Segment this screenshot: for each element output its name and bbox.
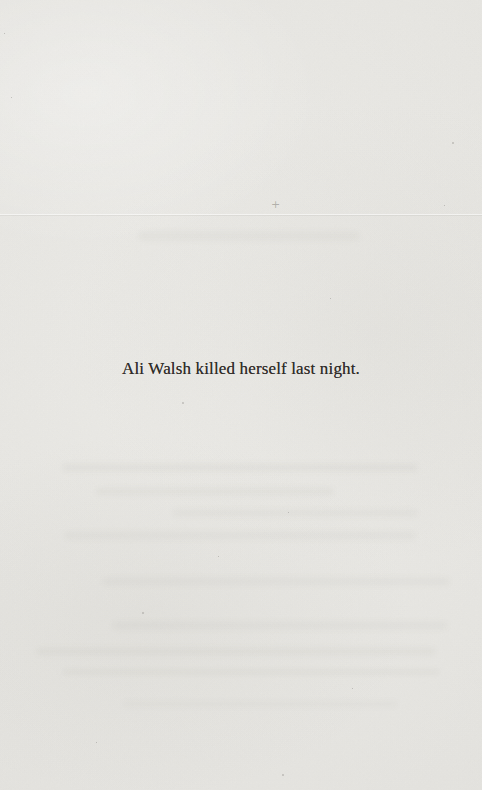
dust-speck xyxy=(182,402,184,404)
ghost-bleedthrough xyxy=(112,621,448,630)
dust-speck xyxy=(330,298,331,299)
ghost-bleedthrough xyxy=(62,668,440,676)
ghost-bleedthrough xyxy=(64,531,416,540)
dust-speck xyxy=(282,774,284,776)
scan-artifact-mark: + xyxy=(271,198,280,211)
page-text: Ali Walsh killed herself last night. xyxy=(0,359,482,379)
scan-artifact-line xyxy=(0,214,482,215)
ghost-bleedthrough xyxy=(36,647,436,656)
dust-speck xyxy=(218,556,219,557)
dust-speck xyxy=(11,97,12,98)
dust-speck xyxy=(444,205,445,206)
paper-grain-texture xyxy=(0,0,482,790)
dust-speck xyxy=(4,33,5,34)
ghost-bleedthrough xyxy=(138,231,360,241)
ghost-bleedthrough xyxy=(122,700,398,708)
ghost-bleedthrough xyxy=(62,463,418,472)
dust-speck xyxy=(352,688,353,689)
dust-speck xyxy=(452,142,454,144)
dust-speck xyxy=(142,612,144,614)
ghost-bleedthrough xyxy=(172,509,418,517)
ghost-bleedthrough xyxy=(96,487,334,496)
book-page: + Ali Walsh killed herself last night. xyxy=(0,0,482,790)
dust-speck xyxy=(96,742,97,743)
dust-speck xyxy=(288,512,289,513)
ghost-bleedthrough xyxy=(102,577,450,586)
